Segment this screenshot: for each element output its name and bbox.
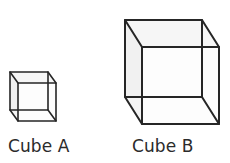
cube-comparison-diagram: Cube A Cube B (0, 0, 230, 163)
cube-b-group (125, 20, 219, 124)
cube-a-group (10, 72, 56, 121)
cube-b-front-face (142, 47, 219, 124)
cube-b-label: Cube B (132, 136, 194, 156)
cube-a-front-face (18, 83, 56, 121)
cube-a-label: Cube A (8, 136, 70, 156)
